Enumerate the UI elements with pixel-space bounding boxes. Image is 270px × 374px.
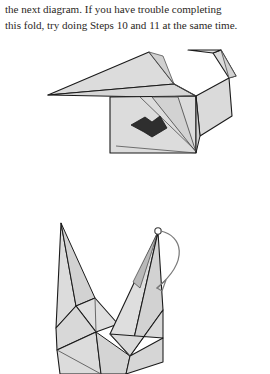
origami-crane-rotation-svg — [0, 210, 270, 374]
page-canvas: the next diagram. If you have trouble co… — [0, 0, 270, 374]
crane-upright-panels — [56, 223, 163, 374]
right-flank-panel — [196, 78, 232, 136]
figure-step-10 — [0, 44, 270, 169]
crane-body-panels — [48, 50, 236, 153]
origami-crane-side-view-svg — [0, 44, 270, 169]
figure-step-11 — [0, 210, 270, 374]
rotation-pivot-marker — [155, 228, 161, 234]
body-text-line-1: the next diagram. If you have trouble co… — [5, 2, 267, 18]
body-text-block: the next diagram. If you have trouble co… — [5, 2, 267, 33]
body-text-line-2: this fold, try doing Steps 10 and 11 at … — [5, 18, 267, 34]
